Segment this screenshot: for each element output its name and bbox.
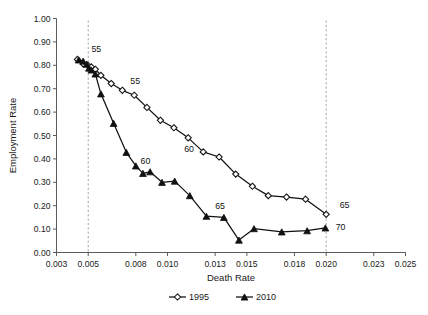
- legend-entry-2010[interactable]: 2010: [236, 292, 276, 302]
- data-series-group: [74, 56, 329, 243]
- data-point-1995-18: [283, 194, 289, 200]
- data-annotations-group: 55556060656570: [91, 44, 349, 232]
- axes-spines-group: [57, 19, 406, 253]
- x-axis-title: Death Rate: [207, 272, 255, 283]
- data-point-2010-8: [123, 149, 130, 155]
- data-point-2010-6: [98, 91, 105, 97]
- x-tick-label-8: 0.023: [363, 259, 385, 269]
- y-tick-label-3: 0.30: [34, 177, 51, 187]
- y-axis-title: Employment Rate: [7, 98, 18, 174]
- data-point-2010-9: [132, 163, 139, 169]
- legend-label-2010: 2010: [256, 292, 276, 302]
- annotation-2010-55-0: 55: [91, 44, 101, 54]
- y-tick-label-5: 0.50: [34, 131, 51, 141]
- y-tick-label-9: 0.90: [34, 37, 51, 47]
- x-tick-label-0: 0.003: [46, 259, 68, 269]
- annotation-1995-60-2: 60: [184, 144, 194, 154]
- annotation-1995-65-5: 65: [340, 200, 350, 210]
- x-tick-label-5: 0.015: [236, 259, 258, 269]
- y-tick-label-7: 0.70: [34, 84, 51, 94]
- y-tick-label-4: 0.40: [34, 154, 51, 164]
- annotation-2010-60-3: 60: [141, 156, 151, 166]
- chart-legend: 19952010: [169, 292, 276, 302]
- legend-label-1995: 1995: [189, 292, 209, 302]
- x-tick-label-9: 0.025: [395, 259, 417, 269]
- chart-svg: 0.0030.0050.0080.0100.0130.0150.0180.020…: [0, 0, 428, 315]
- data-point-1995-17: [265, 193, 271, 199]
- y-tick-label-8: 0.80: [34, 60, 51, 70]
- annotation-2010-65-4: 65: [215, 201, 225, 211]
- annotation-2010-70-6: 70: [336, 222, 346, 232]
- x-tick-label-2: 0.008: [125, 259, 147, 269]
- y-tick-label-6: 0.60: [34, 107, 51, 117]
- y-axis-tick-labels: 0.000.100.200.300.400.500.600.700.800.90…: [34, 14, 51, 258]
- y-tick-label-2: 0.20: [34, 201, 51, 211]
- annotation-1995-55-1: 55: [130, 76, 140, 86]
- x-tick-label-6: 0.018: [284, 259, 306, 269]
- x-tick-label-7: 0.020: [315, 259, 337, 269]
- data-point-1995-7: [119, 87, 125, 93]
- x-axis-ticks-group: [57, 253, 406, 257]
- x-tick-label-1: 0.005: [77, 259, 99, 269]
- y-tick-label-1: 0.10: [34, 224, 51, 234]
- data-point-1995-legend: [174, 294, 180, 300]
- x-tick-label-3: 0.010: [157, 259, 179, 269]
- x-tick-label-4: 0.013: [204, 259, 226, 269]
- series-1995: [74, 56, 329, 217]
- y-tick-label-10: 1.00: [34, 14, 51, 24]
- y-tick-label-0: 0.00: [34, 248, 51, 258]
- x-axis-tick-labels: 0.0030.0050.0080.0100.0130.0150.0180.020…: [46, 259, 417, 269]
- legend-entry-1995[interactable]: 1995: [169, 292, 209, 302]
- y-axis-ticks-group: [53, 19, 57, 253]
- data-point-2010-7: [110, 120, 117, 126]
- series-line-1995: [77, 59, 326, 214]
